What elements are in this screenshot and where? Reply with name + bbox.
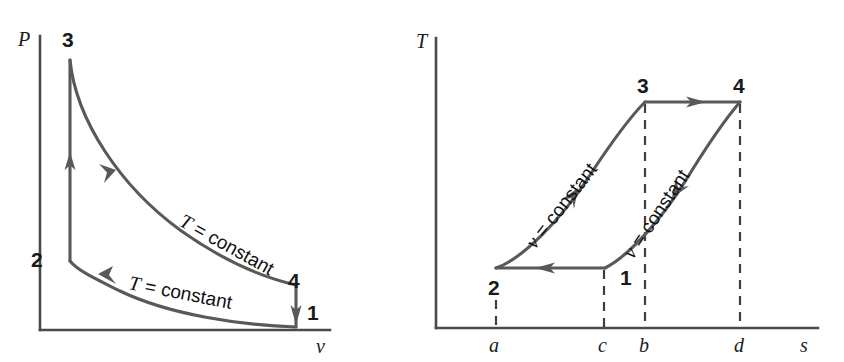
pv-annot-lower-rest: = constant — [138, 274, 234, 313]
ts-state-label-4: 4 — [733, 74, 745, 97]
ts-tick-label-b: b — [639, 334, 649, 356]
ts-annotation-left: ν = constant — [521, 158, 602, 253]
pv-annot-upper-rest: = constant — [186, 216, 279, 280]
pv-state-label-4: 4 — [288, 269, 300, 292]
cycle-diagrams-svg: P v 3 2 4 1 T = constant T = constant — [0, 0, 844, 362]
ts-annot-right-rest: = constant — [624, 165, 694, 255]
svg-text:ν = constant: ν = constant — [521, 158, 602, 253]
thermodynamic-cycle-figure: P v 3 2 4 1 T = constant T = constant — [0, 0, 844, 362]
svg-text:T = constant: T = constant — [176, 209, 279, 279]
ts-tick-label-c: c — [598, 334, 607, 356]
pv-arrow-3-to-4-icon — [99, 164, 116, 183]
ts-state-label-2: 2 — [488, 276, 500, 299]
pv-annotation-lower: T = constant — [127, 271, 235, 313]
svg-text:T = constant: T = constant — [127, 271, 235, 313]
svg-text:ν = constant: ν = constant — [618, 164, 694, 262]
pv-annotation-upper: T = constant — [176, 209, 279, 279]
pv-state-label-2: 2 — [31, 248, 43, 271]
ts-state-label-1: 1 — [620, 266, 632, 289]
pv-x-axis-label: v — [316, 335, 325, 357]
pv-diagram-panel: P v 3 2 4 1 T = constant T = constant — [17, 28, 330, 357]
ts-tick-label-d: d — [734, 334, 745, 356]
pv-state-label-3: 3 — [62, 28, 74, 51]
ts-annot-left-rest: = constant — [527, 158, 602, 245]
ts-state-label-3: 3 — [637, 74, 649, 97]
pv-y-axis-label: P — [17, 28, 30, 50]
ts-x-axis-label: s — [800, 334, 808, 356]
ts-y-axis-label: T — [416, 30, 429, 52]
ts-annotation-right: ν = constant — [618, 164, 694, 262]
ts-tick-label-a: a — [489, 334, 499, 356]
pv-state-label-1: 1 — [307, 301, 319, 324]
ts-diagram-panel: T s a c b d 3 4 2 1 ν = constant ν = con… — [416, 30, 818, 356]
